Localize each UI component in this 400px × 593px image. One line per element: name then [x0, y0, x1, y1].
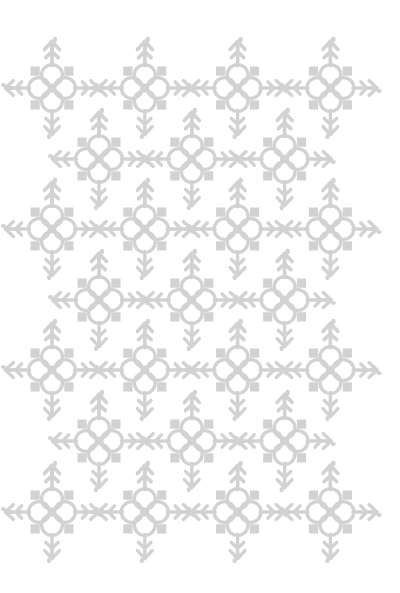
snowflake-pattern-layer	[0, 0, 400, 593]
pattern-canvas	[0, 0, 400, 593]
